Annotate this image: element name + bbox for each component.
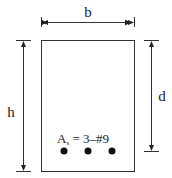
depth-label: d <box>158 88 166 104</box>
width-dimension: b <box>42 4 135 27</box>
width-label: b <box>84 4 92 20</box>
rebar-dot <box>61 148 68 155</box>
steel-area-label: As = 3–#9 <box>57 131 109 147</box>
height-label: h <box>7 104 15 120</box>
depth-dimension: d <box>144 41 166 152</box>
rebar-dot <box>109 148 116 155</box>
beam-section-diagram: b h d As = 3–#9 <box>0 0 172 178</box>
height-dimension: h <box>7 41 31 172</box>
rebar-group <box>61 148 116 155</box>
rebar-dot <box>85 148 92 155</box>
